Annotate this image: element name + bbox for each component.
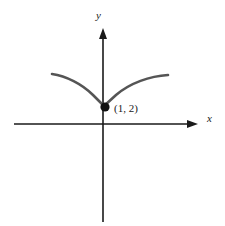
vertex-point-marker <box>100 102 109 111</box>
y-axis-label: y <box>96 10 101 21</box>
coordinate-plane-svg <box>0 0 225 226</box>
curve-left-branch <box>52 74 104 106</box>
x-axis-arrowhead <box>187 120 198 128</box>
x-axis-label: x <box>207 113 212 124</box>
vertex-point-label: (1, 2) <box>114 103 138 114</box>
graph-figure: y x (1, 2) <box>0 0 225 226</box>
y-axis-arrowhead <box>99 28 107 39</box>
